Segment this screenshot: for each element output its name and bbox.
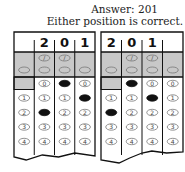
entry-digit: 2	[40, 35, 49, 50]
no-zero-cell	[101, 77, 122, 90]
digit-bubble-label: 0	[171, 80, 175, 87]
digit-bubble-label: 4	[22, 138, 26, 145]
digit-bubble-label: 4	[150, 138, 154, 145]
digit-bubble-label: 0	[83, 80, 87, 87]
digit-bubble-label: 0	[150, 80, 154, 87]
entry-digit: 2	[107, 35, 116, 50]
digit-bubble-label: 2	[83, 109, 87, 116]
digit-bubble-label: 3	[42, 123, 46, 130]
digit-bubble-label: 4	[171, 138, 175, 145]
digit-bubble-label: 2	[150, 109, 154, 116]
digit-bubble-label: 4	[109, 138, 113, 145]
no-zero-cell	[14, 77, 34, 90]
filled-bubble	[79, 95, 90, 101]
filled-bubble	[39, 109, 50, 115]
digit-bubble-label: 3	[63, 123, 67, 130]
digit-bubble-label: 4	[42, 138, 46, 145]
filled-bubble	[59, 80, 70, 86]
entry-digit: 0	[60, 35, 69, 50]
filled-bubble	[147, 95, 158, 101]
digit-bubble-label: 2	[130, 109, 134, 116]
filled-bubble	[126, 80, 137, 86]
digit-bubble-label: 1	[130, 94, 134, 101]
digit-bubble-label: 3	[150, 123, 154, 130]
digit-bubble-label: 2	[171, 109, 175, 116]
digit-bubble-label: 4	[83, 138, 87, 145]
digit-bubble-label: 3	[109, 123, 113, 130]
digit-bubble-label: 1	[109, 94, 113, 101]
filled-bubble	[106, 109, 117, 115]
digit-bubble-label: 1	[171, 94, 175, 101]
digit-bubble-label: 3	[83, 123, 87, 130]
digit-bubble-label: 1	[22, 94, 26, 101]
digit-bubble-label: 2	[22, 109, 26, 116]
digit-bubble-label: 1	[63, 94, 67, 101]
digit-bubble-label: 3	[22, 123, 26, 130]
digit-bubble-label: 2	[63, 109, 67, 116]
answer-grids: 201//0011122233334444201//00111222333344…	[0, 0, 185, 172]
entry-digit: 1	[80, 35, 89, 50]
digit-bubble-label: 3	[171, 123, 175, 130]
digit-bubble-label: 3	[130, 123, 134, 130]
entry-digit: 1	[148, 35, 157, 50]
digit-bubble-label: 4	[130, 138, 134, 145]
entry-digit: 0	[127, 35, 136, 50]
digit-bubble-label: 0	[42, 80, 46, 87]
digit-bubble-label: 4	[63, 138, 67, 145]
digit-bubble-label: 1	[42, 94, 46, 101]
